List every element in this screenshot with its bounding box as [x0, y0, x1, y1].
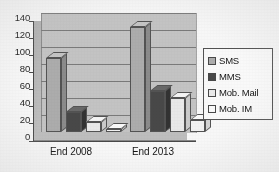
y-tick-mark-60 [29, 89, 34, 90]
bar-face [66, 112, 81, 132]
legend-label-mob-im: Mob. IM [219, 104, 252, 114]
x-tick-end-2008: End 2008 [50, 146, 92, 157]
y-tick-0: 0 [2, 132, 30, 141]
bar-face [130, 27, 145, 132]
legend-item-sms: SMS [208, 53, 269, 69]
legend-label-mob-mail: Mob. Mail [219, 88, 258, 98]
bar-face [86, 122, 101, 132]
bar-face [150, 91, 165, 132]
gridline-120 [41, 30, 196, 31]
gridline-140 [41, 13, 196, 14]
bar-face [170, 98, 185, 132]
y-tick-mark-100 [29, 55, 34, 56]
x-tick-end-2013: End 2013 [132, 146, 174, 157]
legend-swatch-mob-im-icon [208, 105, 216, 113]
y-tick-mark-20 [29, 123, 34, 124]
legend-swatch-mms-icon [208, 73, 216, 81]
chart-legend: SMS MMS Mob. Mail Mob. IM [203, 48, 273, 120]
bar-sms-end-2008 [46, 58, 61, 132]
bar-mob-im-end-2008 [106, 129, 121, 132]
y-tick-mark-0 [29, 141, 34, 142]
y-tick-40: 40 [2, 98, 30, 107]
y-tick-mark-140 [29, 21, 34, 22]
y-tick-20: 20 [2, 115, 30, 124]
y-tick-100: 100 [2, 47, 30, 56]
bar-mms-end-2008 [66, 112, 81, 132]
legend-item-mms: MMS [208, 69, 269, 85]
y-tick-mark-40 [29, 106, 34, 107]
bar-sms-end-2013 [130, 27, 145, 132]
y-tick-mark-120 [29, 38, 34, 39]
x-axis-line [33, 141, 196, 142]
plot-area [33, 13, 195, 141]
bar-mms-end-2013 [150, 91, 165, 132]
y-tick-140: 140 [2, 13, 30, 22]
y-tick-mark-80 [29, 72, 34, 73]
legend-swatch-sms-icon [208, 57, 216, 65]
legend-label-sms: SMS [219, 56, 239, 66]
bar-face [106, 129, 121, 132]
legend-item-mob-im: Mob. IM [208, 101, 269, 117]
y-tick-60: 60 [2, 81, 30, 90]
x-axis-labels: End 2008 End 2013 [33, 146, 203, 162]
bar-face [190, 120, 205, 132]
y-tick-80: 80 [2, 64, 30, 73]
bar-face [46, 58, 61, 132]
bar-mob-mail-end-2013 [170, 98, 185, 132]
legend-item-mob-mail: Mob. Mail [208, 85, 269, 101]
legend-label-mms: MMS [219, 72, 241, 82]
bar-mob-im-end-2013 [190, 120, 205, 132]
gridline-100 [41, 47, 196, 48]
bar-chart-figure: 140 120 100 80 60 40 20 0 [0, 0, 279, 172]
y-tick-120: 120 [2, 30, 30, 39]
y-axis-labels: 140 120 100 80 60 40 20 0 [0, 13, 30, 143]
bar-mob-mail-end-2008 [86, 122, 101, 132]
legend-swatch-mob-mail-icon [208, 89, 216, 97]
